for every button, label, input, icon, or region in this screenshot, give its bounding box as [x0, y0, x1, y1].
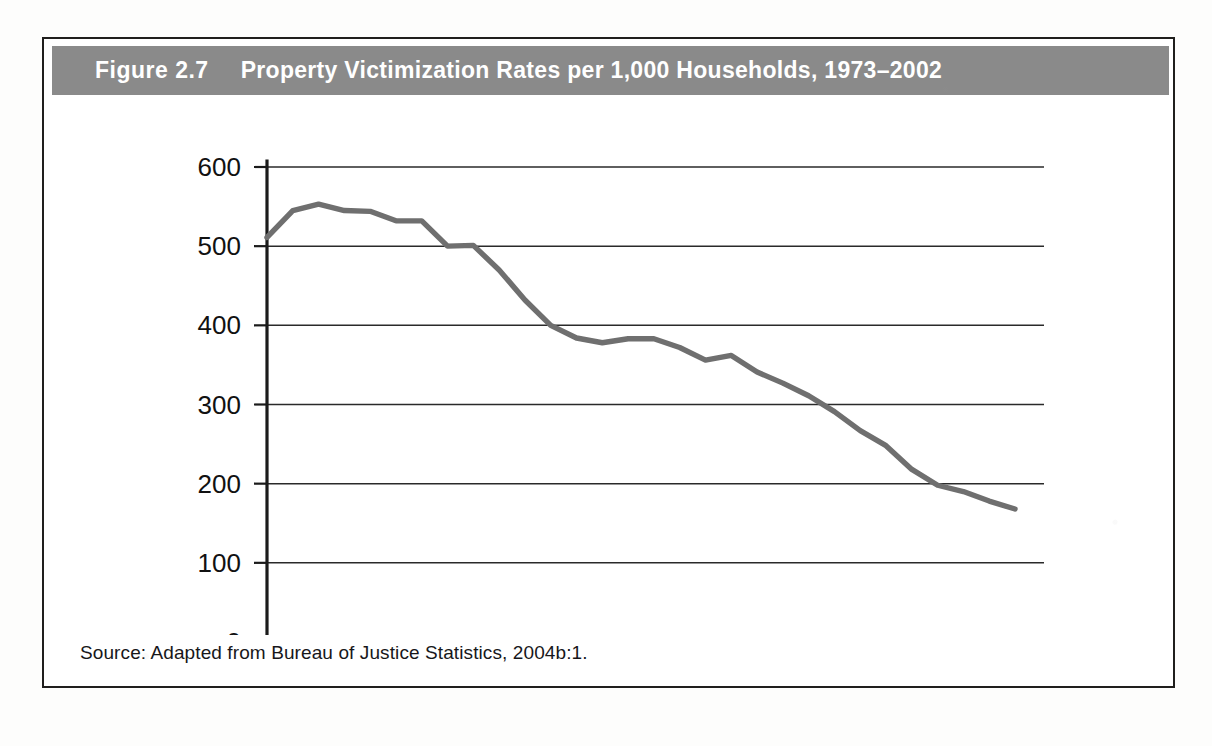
figure-title-banner: Figure 2.7 Property Victimization Rates … [52, 46, 1169, 95]
y-tick-label: 0 [227, 627, 241, 635]
y-tick-label: 400 [198, 310, 241, 340]
axes [255, 161, 1044, 635]
y-tick-label: 200 [198, 469, 241, 499]
page-background: Figure 2.7 Property Victimization Rates … [0, 0, 1212, 746]
data-series-line [267, 204, 1015, 509]
chart-plot-area: 0100200300400500600 19731976197919821985… [44, 95, 1173, 635]
y-tick-label: 300 [198, 390, 241, 420]
line-chart: 0100200300400500600 19731976197919821985… [44, 95, 1173, 635]
y-axis-tick-labels: 0100200300400500600 [198, 152, 241, 635]
y-tick-label: 100 [198, 548, 241, 578]
gridlines [267, 167, 1044, 563]
figure-box: Figure 2.7 Property Victimization Rates … [42, 37, 1175, 688]
y-tick-label: 600 [198, 152, 241, 182]
figure-number: Figure 2.7 [95, 57, 209, 84]
figure-source-note: Source: Adapted from Bureau of Justice S… [80, 642, 588, 664]
figure-title: Property Victimization Rates per 1,000 H… [241, 57, 943, 84]
y-tick-label: 500 [198, 231, 241, 261]
